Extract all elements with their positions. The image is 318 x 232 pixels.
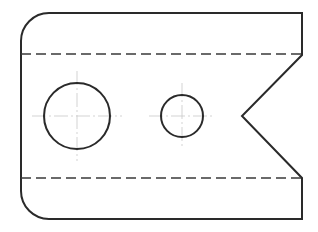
- technical-drawing: [0, 0, 318, 232]
- centerlines: [32, 71, 215, 161]
